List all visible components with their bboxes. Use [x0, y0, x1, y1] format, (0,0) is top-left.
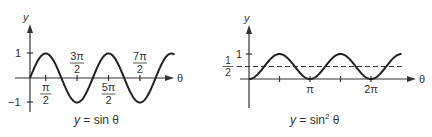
- chart-sine: y θ 1 −1 π 2 3π 2 5π 2 7π: [8, 11, 183, 127]
- chart-caption: y = sin θ: [73, 113, 119, 127]
- y-axis-arrow-icon: [246, 25, 252, 34]
- x-tick-label-7pi-over-2: 7π 2: [133, 50, 147, 75]
- chart-sine-squared: y θ 1 1 2 π 2π y = sin2 θ: [223, 12, 425, 127]
- y-axis-label: y: [22, 11, 30, 23]
- x-tick-label: 2π: [364, 83, 378, 95]
- svg-text:7π: 7π: [133, 50, 147, 62]
- figure: y θ 1 −1 π 2 3π 2 5π 2 7π: [0, 0, 432, 137]
- y-tick-label: 1: [15, 47, 21, 59]
- svg-text:2: 2: [43, 94, 49, 106]
- y-tick-label: 1: [236, 48, 242, 60]
- x-axis-label: θ: [177, 72, 183, 84]
- x-axis-arrow-icon: [407, 76, 416, 82]
- svg-text:2: 2: [74, 63, 80, 75]
- svg-text:2: 2: [137, 63, 143, 75]
- x-axis-label: θ: [419, 73, 425, 85]
- svg-text:2: 2: [225, 67, 231, 78]
- x-tick-label-5pi-over-2: 5π 2: [102, 81, 116, 106]
- x-tick-label: π: [306, 83, 314, 95]
- chart-caption: y = sin2 θ: [289, 112, 340, 127]
- svg-text:5π: 5π: [102, 81, 116, 93]
- x-axis-arrow-icon: [165, 75, 174, 81]
- svg-text:π: π: [42, 81, 50, 93]
- svg-text:3π: 3π: [70, 50, 84, 62]
- reference-label-half: 1 2: [223, 55, 233, 78]
- svg-text:2: 2: [105, 94, 111, 106]
- x-tick-label-pi-over-2: π 2: [40, 81, 52, 106]
- x-tick-label-3pi-over-2: 3π 2: [70, 50, 84, 75]
- y-axis-label: y: [243, 12, 251, 24]
- svg-text:1: 1: [225, 55, 231, 66]
- y-axis-arrow-icon: [27, 24, 33, 33]
- y-tick-label: −1: [8, 96, 21, 108]
